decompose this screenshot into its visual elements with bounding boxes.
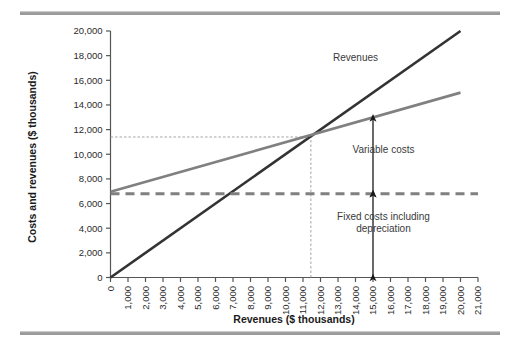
y-tick-label: 2,000 — [79, 247, 103, 258]
x-tick-label: 20,000 — [455, 286, 466, 315]
x-tick-label: 21,000 — [472, 286, 483, 315]
figure-canvas: 02,0004,0006,0008,00010,00012,00014,0001… — [0, 0, 519, 350]
x-tick-label: 8,000 — [245, 286, 256, 310]
y-axis-title: Costs and revenues ($ thousands) — [26, 71, 38, 243]
annotation-revenues-label: Revenues — [333, 52, 378, 63]
y-tick-label: 12,000 — [73, 124, 102, 135]
chart-annotations: RevenuesVariable costsFixed costs includ… — [333, 52, 430, 234]
series-total-costs — [111, 93, 461, 192]
x-tick-label: 1,000 — [122, 286, 133, 310]
x-axis-ticks: 01,0002,0003,0004,0005,0006,0007,0008,00… — [105, 278, 484, 316]
x-tick-label: 15,000 — [367, 286, 378, 315]
y-axis-ticks: 02,0004,0006,0008,00010,00012,00014,0001… — [73, 25, 110, 283]
x-tick-label: 16,000 — [385, 286, 396, 315]
x-tick-label: 18,000 — [420, 286, 431, 315]
x-tick-label: 10,000 — [280, 286, 291, 315]
x-tick-label: 11,000 — [297, 286, 308, 314]
x-tick-label: 19,000 — [437, 286, 448, 315]
y-tick-label: 0 — [97, 272, 102, 283]
x-tick-label: 13,000 — [332, 286, 343, 315]
y-tick-label: 16,000 — [73, 75, 102, 86]
x-tick-label: 7,000 — [227, 286, 238, 310]
annotation-fixed-costs-label-line1: Fixed costs including — [337, 211, 430, 222]
x-tick-label: 3,000 — [157, 286, 168, 310]
top-rule-highlight — [20, 11, 500, 12]
y-tick-label: 6,000 — [79, 198, 103, 209]
y-tick-label: 10,000 — [73, 149, 102, 160]
x-tick-label: 0 — [105, 286, 116, 291]
y-tick-label: 20,000 — [73, 25, 102, 36]
y-tick-label: 4,000 — [79, 223, 103, 234]
annotation-fixed-costs-label-line2: depreciation — [356, 223, 410, 234]
x-tick-label: 5,000 — [192, 286, 203, 310]
x-tick-label: 14,000 — [350, 286, 361, 315]
x-tick-label: 4,000 — [175, 286, 186, 310]
breakeven-chart: 02,0004,0006,0008,00010,00012,00014,0001… — [0, 0, 519, 350]
x-tick-label: 6,000 — [210, 286, 221, 310]
x-tick-label: 12,000 — [315, 286, 326, 315]
x-tick-label: 2,000 — [140, 286, 151, 310]
y-tick-label: 14,000 — [73, 99, 102, 110]
y-tick-label: 18,000 — [73, 50, 102, 61]
x-tick-label: 17,000 — [402, 286, 413, 315]
x-tick-label: 9,000 — [262, 286, 273, 310]
y-tick-label: 8,000 — [79, 173, 103, 184]
bottom-rule-highlight — [20, 331, 500, 332]
annotation-variable-costs-label: Variable costs — [352, 144, 414, 155]
data-series — [111, 31, 479, 278]
x-axis-title: Revenues ($ thousands) — [233, 313, 354, 325]
